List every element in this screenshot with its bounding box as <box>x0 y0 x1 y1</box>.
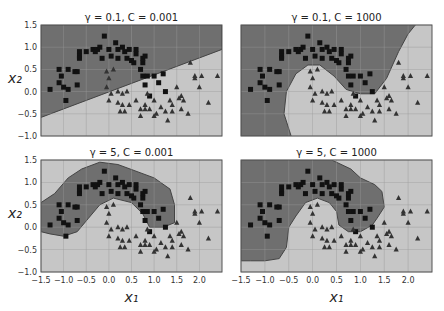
class-0-point <box>327 184 332 189</box>
class-0-point <box>320 56 325 61</box>
y-tick-label: 0.5 <box>24 201 37 210</box>
class-0-point <box>66 222 71 227</box>
class-0-point <box>348 218 353 223</box>
class-0-point <box>163 89 168 94</box>
subplot-3: γ = 5, C = 0.0011.51.00.50.0−0.5−1.0x₂−1… <box>7 147 222 305</box>
class-0-point <box>320 182 325 187</box>
class-0-point <box>262 85 267 90</box>
class-0-point <box>122 184 127 189</box>
class-0-point <box>332 182 337 187</box>
x-tick-label: 2.0 <box>402 276 415 285</box>
class-0-point <box>145 209 150 214</box>
subplot-title: γ = 5, C = 1000 <box>296 147 377 158</box>
class-0-point <box>279 184 284 189</box>
y-tick-label: 1.5 <box>24 21 37 30</box>
class-0-point <box>344 202 349 207</box>
class-0-point <box>344 67 349 72</box>
x-tick-label: −0.5 <box>279 276 298 285</box>
class-0-point <box>324 180 329 185</box>
y-axis-label: x₂ <box>7 205 22 221</box>
class-0-point <box>367 71 372 76</box>
class-0-point <box>363 216 368 221</box>
class-0-point <box>57 67 62 72</box>
class-0-point <box>301 180 306 185</box>
y-tick-label: 1.0 <box>24 178 37 187</box>
class-0-point <box>143 218 148 223</box>
class-0-point <box>277 69 282 74</box>
class-0-point <box>59 74 64 79</box>
class-0-point <box>161 71 166 76</box>
class-0-point <box>324 45 329 50</box>
class-0-point <box>339 182 344 187</box>
y-tick-label: −1.0 <box>18 132 37 141</box>
y-axis-label: x₂ <box>7 70 22 86</box>
class-0-point <box>258 202 263 207</box>
class-0-point <box>102 169 107 174</box>
class-0-point <box>348 54 353 59</box>
class-0-point <box>106 182 111 187</box>
class-0-point <box>351 74 356 79</box>
class-0-point <box>61 220 66 225</box>
x-tick-label: −1.0 <box>255 276 274 285</box>
y-tick-label: 1.5 <box>24 156 37 165</box>
class-0-point <box>320 47 325 52</box>
class-0-point <box>66 67 71 72</box>
y-tick-label: 1.0 <box>24 43 37 52</box>
class-0-point <box>57 202 62 207</box>
class-0-point <box>63 98 68 103</box>
class-0-point <box>305 169 310 174</box>
class-0-point <box>127 182 132 187</box>
class-0-point <box>120 45 125 50</box>
class-0-point <box>346 196 351 201</box>
class-0-point <box>115 47 120 52</box>
x-tick-label: 1.5 <box>378 276 391 285</box>
subplot-title: γ = 5, C = 0.001 <box>90 147 174 158</box>
x-tick-label: 1.0 <box>148 276 161 285</box>
class-0-point <box>145 74 150 79</box>
class-0-point <box>370 89 375 94</box>
class-0-point <box>320 191 325 196</box>
class-0-point <box>75 218 80 223</box>
x-axis-label: x₁ <box>329 289 344 305</box>
class-0-point <box>131 60 136 65</box>
y-tick-label: −0.5 <box>18 246 37 255</box>
class-0-point <box>138 67 143 72</box>
class-0-point <box>301 45 306 50</box>
class-0-point <box>100 56 105 61</box>
class-0-point <box>75 82 80 87</box>
class-0-point <box>265 234 270 239</box>
class-0-point <box>122 49 127 54</box>
class-0-point <box>367 207 372 212</box>
class-0-point <box>346 209 351 214</box>
x-tick-label: −0.5 <box>77 276 96 285</box>
class-0-point <box>265 98 270 103</box>
class-0-point <box>84 184 89 189</box>
class-0-point <box>348 82 353 87</box>
class-0-point <box>134 51 139 56</box>
class-0-point <box>97 180 102 185</box>
subplot-4: γ = 5, C = 1000−1.5−1.0−0.50.00.51.01.52… <box>231 147 432 305</box>
class-0-point <box>248 222 253 227</box>
class-0-point <box>313 54 318 59</box>
class-0-point <box>310 182 315 187</box>
class-0-point <box>329 191 334 196</box>
class-0-point <box>358 209 363 214</box>
class-0-point <box>63 234 68 239</box>
class-0-point <box>77 49 82 54</box>
class-0-point <box>346 60 351 65</box>
class-0-point <box>267 87 272 92</box>
class-0-point <box>138 202 143 207</box>
class-0-point <box>351 209 356 214</box>
class-0-point <box>48 222 53 227</box>
class-0-point <box>48 87 53 92</box>
class-0-point <box>258 216 263 221</box>
class-0-point <box>286 184 291 189</box>
class-0-point <box>97 45 102 50</box>
subplot-2: γ = 0.1, C = 1000 <box>241 12 432 136</box>
class-0-point <box>339 51 344 56</box>
x-tick-label: −1.5 <box>231 276 250 285</box>
class-0-point <box>140 74 145 79</box>
class-0-point <box>279 49 284 54</box>
class-0-point <box>113 175 118 180</box>
class-0-point <box>317 40 322 45</box>
